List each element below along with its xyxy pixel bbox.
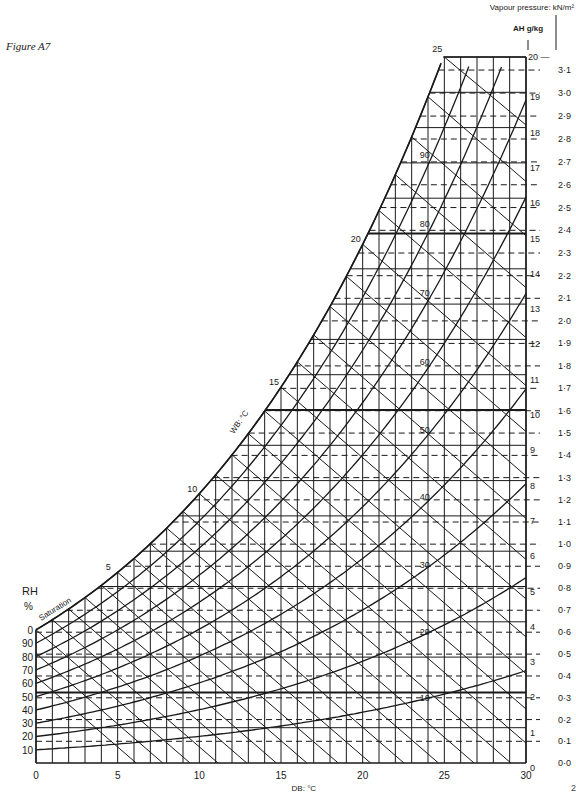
svg-text:15: 15 — [530, 234, 540, 244]
svg-text:70: 70 — [22, 665, 34, 676]
svg-text:1·5: 1·5 — [558, 428, 571, 438]
svg-text:1·0: 1·0 — [558, 539, 571, 549]
svg-text:3·1: 3·1 — [558, 65, 571, 75]
svg-text:15: 15 — [275, 770, 287, 781]
svg-text:RH: RH — [22, 585, 38, 597]
svg-text:0·1: 0·1 — [558, 736, 571, 746]
svg-text:25: 25 — [439, 770, 451, 781]
svg-text:20: 20 — [22, 731, 34, 742]
svg-text:4: 4 — [530, 622, 535, 632]
svg-text:16: 16 — [530, 198, 540, 208]
svg-text:AH g/kg: AH g/kg — [513, 24, 543, 33]
svg-text:1·8: 1·8 — [558, 361, 571, 371]
svg-text:%: % — [24, 601, 33, 612]
grid-lines — [36, 57, 540, 763]
axis-labels: 051015202530DB: °C0123456789101112131415… — [22, 3, 575, 793]
svg-text:90: 90 — [420, 150, 430, 160]
svg-text:14: 14 — [530, 269, 540, 279]
svg-text:2: 2 — [530, 692, 535, 702]
svg-text:0·9: 0·9 — [558, 561, 571, 571]
svg-text:2·1: 2·1 — [558, 293, 571, 303]
svg-text:0·3: 0·3 — [558, 693, 571, 703]
svg-text:17: 17 — [530, 163, 540, 173]
svg-text:7: 7 — [530, 516, 535, 526]
svg-text:8: 8 — [530, 481, 535, 491]
svg-text:50: 50 — [420, 425, 430, 435]
svg-text:1·3: 1·3 — [558, 473, 571, 483]
svg-text:Vapour pressure: kN/m²: Vapour pressure: kN/m² — [490, 3, 575, 12]
svg-text:1·6: 1·6 — [558, 406, 571, 416]
svg-text:2·3: 2·3 — [558, 248, 571, 258]
svg-text:2·0: 2·0 — [558, 316, 571, 326]
svg-text:0·4: 0·4 — [558, 671, 571, 681]
svg-text:5: 5 — [530, 587, 535, 597]
svg-text:10: 10 — [530, 410, 540, 420]
svg-text:3: 3 — [530, 657, 535, 667]
svg-text:13: 13 — [530, 304, 540, 314]
svg-text:1·2: 1·2 — [558, 495, 571, 505]
svg-text:1·4: 1·4 — [558, 450, 571, 460]
svg-text:2·5: 2·5 — [558, 203, 571, 213]
svg-text:0·0: 0·0 — [558, 758, 571, 768]
svg-text:0: 0 — [530, 763, 535, 773]
svg-text:80: 80 — [420, 219, 430, 229]
svg-text:DB: °C: DB: °C — [292, 784, 317, 793]
svg-text:0·8: 0·8 — [558, 583, 571, 593]
svg-text:0: 0 — [27, 625, 33, 636]
svg-text:10: 10 — [194, 770, 206, 781]
svg-text:2·4: 2·4 — [558, 225, 571, 235]
svg-text:9: 9 — [530, 445, 535, 455]
svg-text:40: 40 — [22, 705, 34, 716]
svg-text:6: 6 — [530, 551, 535, 561]
svg-text:40: 40 — [420, 492, 430, 502]
svg-text:0·6: 0·6 — [558, 627, 571, 637]
svg-text:20: 20 — [351, 234, 361, 244]
svg-text:20 —: 20 — — [528, 52, 550, 62]
svg-text:2·6: 2·6 — [558, 180, 571, 190]
svg-text:0·7: 0·7 — [558, 605, 571, 615]
svg-text:11: 11 — [530, 375, 539, 385]
svg-text:20: 20 — [420, 627, 430, 637]
svg-text:70: 70 — [420, 288, 430, 298]
svg-text:2·8: 2·8 — [558, 134, 571, 144]
svg-text:5: 5 — [115, 770, 121, 781]
svg-text:10: 10 — [22, 745, 34, 756]
svg-text:19: 19 — [530, 92, 540, 102]
svg-text:15: 15 — [269, 377, 279, 387]
svg-text:18: 18 — [530, 128, 540, 138]
svg-text:60: 60 — [22, 678, 34, 689]
svg-text:20: 20 — [357, 770, 369, 781]
svg-text:5: 5 — [106, 562, 111, 572]
svg-text:10: 10 — [187, 484, 197, 494]
svg-text:1·1: 1·1 — [558, 517, 571, 527]
svg-text:60: 60 — [420, 357, 430, 367]
svg-text:3·0: 3·0 — [558, 88, 571, 98]
svg-text:12: 12 — [530, 339, 540, 349]
svg-text:0·2: 0·2 — [558, 715, 571, 725]
psychrometric-chart: 051015202530DB: °C0123456789101112131415… — [0, 0, 576, 793]
svg-text:90: 90 — [22, 638, 34, 649]
svg-text:30: 30 — [22, 718, 34, 729]
svg-text:WB: °C: WB: °C — [228, 408, 251, 435]
svg-text:2·7: 2·7 — [558, 157, 571, 167]
svg-text:0·5: 0·5 — [558, 649, 571, 659]
page-number: 2 — [571, 783, 576, 793]
svg-text:30: 30 — [420, 560, 430, 570]
svg-text:1·7: 1·7 — [558, 383, 571, 393]
svg-text:50: 50 — [22, 692, 34, 703]
svg-text:1·9: 1·9 — [558, 338, 571, 348]
svg-text:25: 25 — [432, 44, 442, 54]
svg-text:10: 10 — [420, 693, 430, 703]
svg-text:80: 80 — [22, 652, 34, 663]
svg-text:0: 0 — [33, 770, 39, 781]
svg-text:1: 1 — [530, 728, 535, 738]
svg-text:2·9: 2·9 — [558, 111, 571, 121]
svg-text:2·2: 2·2 — [558, 271, 571, 281]
